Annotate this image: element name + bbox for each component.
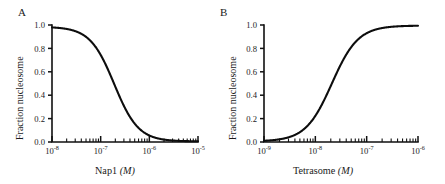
panel-b: B 0.00.20.40.60.81.010-910-810-710-6 Fra… [215, 0, 445, 184]
y-tick-label: 0.8 [246, 44, 257, 54]
y-tick-label: 0.2 [34, 114, 45, 124]
panel-b-x-axis-title: Tetrasome (M) [293, 165, 353, 176]
panel-a-x-axis-title: Nap1 (M) [95, 165, 135, 176]
y-tick-label: 1.0 [246, 20, 257, 30]
panel-b-x-axis-unit: (M) [338, 165, 353, 176]
y-tick-label: 0.0 [246, 137, 257, 147]
panel-b-plot: 0.00.20.40.60.81.010-910-810-710-6 [215, 0, 445, 184]
panel-a-x-axis-title-text: Nap1 [95, 165, 120, 176]
y-tick-label: 0.0 [34, 137, 45, 147]
panel-b-y-axis-title: Fraction nucleosome [227, 56, 238, 140]
data-curve [264, 26, 418, 141]
y-tick-label: 1.0 [34, 20, 45, 30]
y-tick-label: 0.4 [34, 90, 45, 100]
x-tick-label: 10-8 [308, 144, 322, 156]
data-curve [52, 27, 198, 141]
x-tick-label: 10-5 [191, 144, 205, 156]
x-tick-label: 10-9 [257, 144, 271, 156]
y-tick-label: 0.4 [246, 90, 257, 100]
x-tick-label: 10-8 [45, 144, 59, 156]
panel-b-x-axis-title-text: Tetrasome [293, 165, 338, 176]
panel-a-y-axis-title: Fraction nucleosome [14, 56, 25, 140]
panel-a: A 0.00.20.40.60.81.010-810-710-610-5 Fra… [0, 0, 222, 184]
y-tick-label: 0.2 [246, 114, 257, 124]
x-tick-label: 10-6 [142, 144, 156, 156]
x-tick-label: 10-7 [94, 144, 108, 156]
y-tick-label: 0.8 [34, 44, 45, 54]
panel-a-plot: 0.00.20.40.60.81.010-810-710-610-5 [0, 0, 222, 184]
figure-container: A 0.00.20.40.60.81.010-810-710-610-5 Fra… [0, 0, 445, 184]
y-tick-label: 0.6 [246, 67, 257, 77]
x-tick-label: 10-6 [411, 144, 425, 156]
panel-b-y-axis-title-text: Fraction nucleosome [227, 56, 238, 140]
x-tick-label: 10-7 [360, 144, 374, 156]
y-tick-label: 0.6 [34, 67, 45, 77]
panel-a-y-axis-title-text: Fraction nucleosome [14, 56, 25, 140]
panel-a-x-axis-unit: (M) [120, 165, 135, 176]
